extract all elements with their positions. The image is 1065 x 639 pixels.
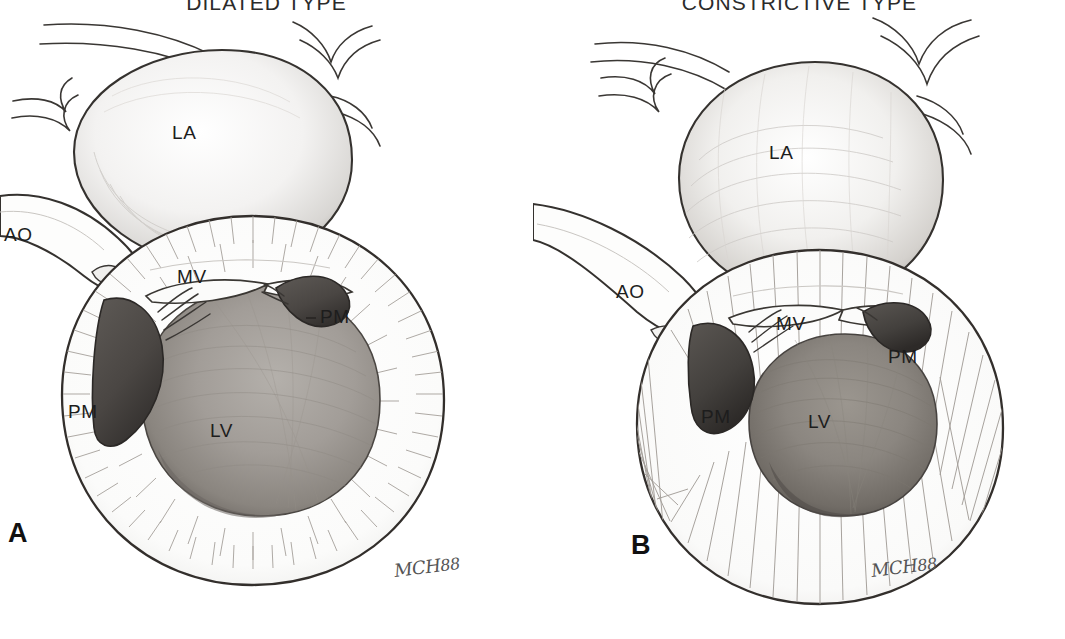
label-mv: MV <box>776 313 806 335</box>
panel-a: DILATED TYPE <box>0 0 533 639</box>
label-ao: AO <box>616 281 645 303</box>
label-la: LA <box>769 142 793 164</box>
label-ao: AO <box>4 224 33 246</box>
panel-a-artwork <box>0 0 533 639</box>
label-mv: MV <box>177 266 207 288</box>
label-pm-left: PM <box>701 406 731 428</box>
label-pm-right: PM <box>320 306 350 328</box>
label-pm-left: PM <box>68 401 98 423</box>
cardiac-cross-section-figure: DILATED TYPE <box>0 0 1065 639</box>
panel-b: CONSTRICTIVE TYPE <box>533 0 1065 639</box>
label-la: LA <box>172 122 196 144</box>
signature-year: 88 <box>916 554 938 575</box>
label-pm-right: PM <box>888 346 918 368</box>
signature-year: 88 <box>439 554 461 575</box>
panel-a-letter: A <box>8 518 28 549</box>
panel-b-letter: B <box>631 530 651 561</box>
label-lv: LV <box>210 420 233 442</box>
label-lv: LV <box>808 411 831 433</box>
